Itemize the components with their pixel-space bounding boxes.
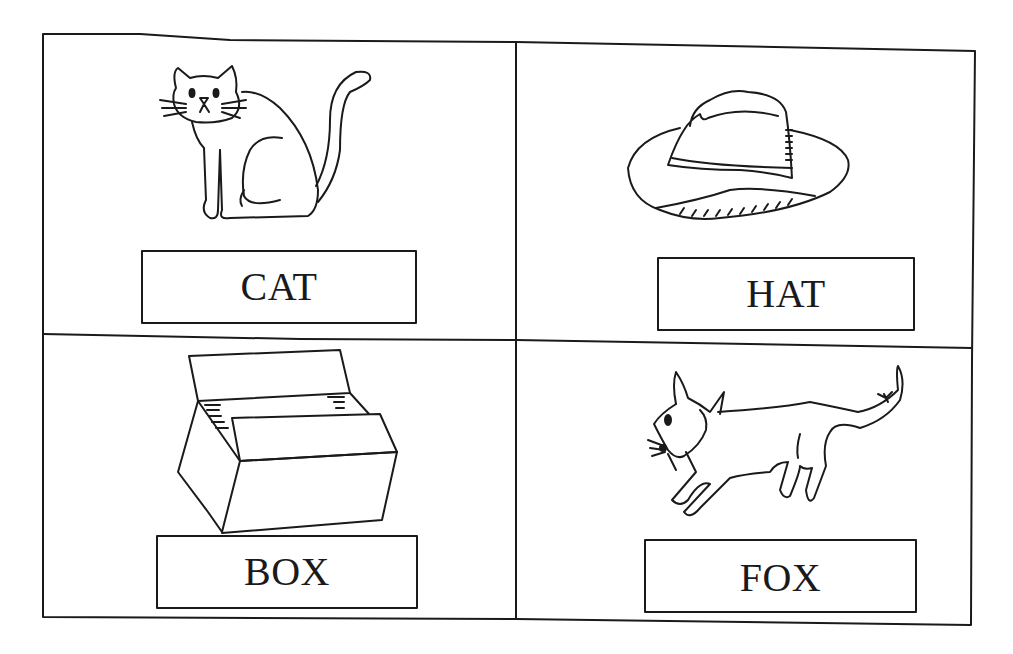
- word-label-cat: CAT: [142, 267, 416, 307]
- card-fox: FOX: [516, 340, 975, 625]
- card-cat: CAT: [43, 34, 516, 334]
- card-hat: HAT: [516, 42, 975, 342]
- word-label-fox: FOX: [645, 558, 916, 598]
- word-label-hat: HAT: [658, 274, 914, 314]
- word-label-box: BOX: [157, 552, 417, 592]
- card-box: BOX: [43, 334, 516, 619]
